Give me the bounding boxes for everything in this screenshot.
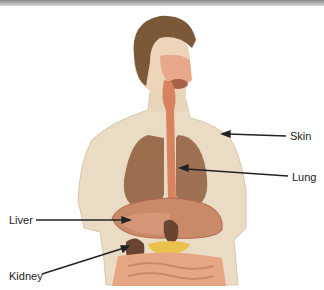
label-skin: Skin: [290, 130, 311, 142]
label-lung: Lung: [292, 171, 316, 183]
label-kidney: Kidney: [9, 270, 43, 282]
label-liver: Liver: [9, 214, 33, 226]
body-figure: [78, 16, 246, 286]
anatomy-illustration: [0, 0, 324, 290]
